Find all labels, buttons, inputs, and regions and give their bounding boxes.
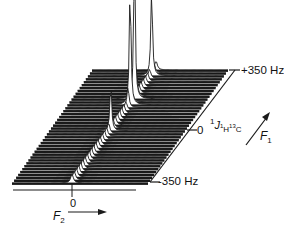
coupling-sub-c: C (236, 125, 242, 134)
f1-mid-tick-label: 0 (197, 125, 203, 137)
f2-name-sub: 2 (60, 216, 64, 225)
f1-name-sub: 1 (267, 136, 271, 145)
f1-axis-name: F1 (260, 130, 272, 142)
coupling-constant-label: 1J1H13C (210, 120, 242, 131)
f1-top-tick-label: +350 Hz (241, 65, 284, 77)
f1-bottom-tick-label: -350 Hz (158, 176, 198, 188)
f2-axis-name: F2 (53, 210, 65, 222)
coupling-sup-13: 13 (229, 124, 236, 130)
f2-tick-label: 0 (70, 198, 76, 209)
nmr-stacked-plot: +350 Hz 0 -350 Hz 1J1H13C F1 0 F2 (0, 0, 284, 230)
stacked-traces (0, 0, 284, 230)
